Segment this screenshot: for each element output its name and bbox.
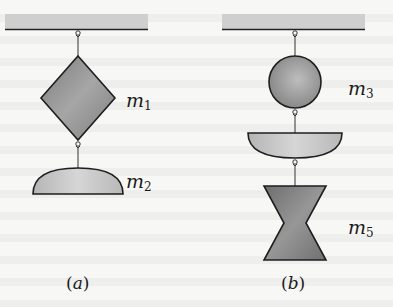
mass-m1-diamond: [41, 56, 115, 140]
mass-m5-hourglass: [264, 186, 326, 260]
ceiling-a: [5, 14, 148, 30]
hook-icon: [76, 31, 80, 37]
label-m2: m2: [126, 172, 152, 193]
caption-b: (b): [281, 273, 305, 293]
hook-icon: [293, 31, 297, 37]
mass-m4-bowl: [248, 133, 342, 158]
mass-m3-sphere: [269, 56, 321, 108]
caption-a: (a): [66, 273, 89, 293]
hook-icon: [76, 142, 80, 148]
hook-icon: [293, 110, 297, 116]
ceiling-b: [222, 14, 365, 30]
hanging-masses-diagram: [0, 0, 393, 307]
label-m3: m3: [348, 79, 374, 100]
hook-icon: [293, 160, 297, 166]
mass-m2-dome: [33, 168, 123, 194]
label-m5: m5: [348, 218, 374, 239]
panel-b: [222, 14, 365, 260]
label-m1: m1: [126, 91, 152, 112]
